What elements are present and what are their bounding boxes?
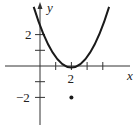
x-tick-label-2: 2 [68, 71, 75, 86]
parabola-curve [34, 7, 109, 68]
y-tick-label-2: 2 [25, 27, 32, 42]
y-axis-arrow-icon [38, 2, 43, 9]
x-axis-label: x [126, 68, 133, 83]
chart-canvas: y x 2 2 −2 [0, 0, 138, 127]
y-axis-label: y [45, 0, 53, 15]
vertex-point [69, 95, 73, 99]
parabola-graph: y x 2 2 −2 [0, 0, 138, 127]
y-tick-label-neg2: −2 [16, 90, 30, 105]
